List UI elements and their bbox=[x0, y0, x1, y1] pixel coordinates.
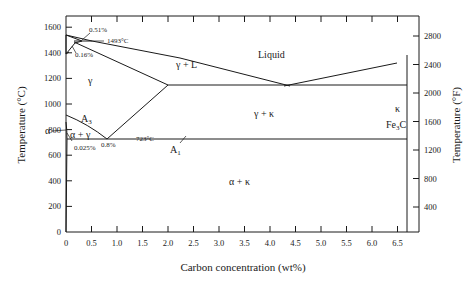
svg-text:6.5: 6.5 bbox=[392, 238, 403, 248]
svg-text:1400: 1400 bbox=[44, 48, 61, 58]
svg-text:1000: 1000 bbox=[44, 99, 61, 109]
svg-text:γ + L: γ + L bbox=[175, 59, 197, 70]
liquidus-right bbox=[284, 63, 397, 86]
phase-diagram: 0 0.5 1.0 1.5 2.0 2.5 3.0 3.5 4.0 4.5 5.… bbox=[0, 0, 473, 288]
x-tick-labels: 0 0.5 1.0 1.5 2.0 2.5 3.0 3.5 4.0 4.5 5.… bbox=[64, 238, 403, 248]
svg-text:1200: 1200 bbox=[44, 73, 61, 83]
svg-text:2400: 2400 bbox=[424, 60, 441, 70]
y-tick-labels-right: 400 800 1200 1600 2000 2400 2800 bbox=[424, 31, 441, 212]
svg-text:κ: κ bbox=[395, 103, 400, 114]
svg-text:1.5: 1.5 bbox=[137, 238, 148, 248]
svg-text:800: 800 bbox=[424, 174, 437, 184]
annotation-pointers bbox=[52, 33, 186, 143]
svg-text:5.5: 5.5 bbox=[341, 238, 352, 248]
svg-text:A3: A3 bbox=[81, 113, 92, 126]
svg-text:γ + κ: γ + κ bbox=[253, 108, 274, 119]
svg-text:α: α bbox=[45, 125, 51, 136]
y-axis-title-left: Temperature (°C) bbox=[15, 86, 28, 164]
svg-text:200: 200 bbox=[48, 201, 61, 211]
svg-text:600: 600 bbox=[48, 150, 61, 160]
svg-text:723°C: 723°C bbox=[136, 135, 154, 143]
x-axis-title: Carbon concentration (wt%) bbox=[180, 261, 306, 274]
svg-text:γ: γ bbox=[87, 75, 93, 86]
svg-text:2000: 2000 bbox=[424, 88, 441, 98]
svg-text:0.025%: 0.025% bbox=[74, 144, 96, 152]
svg-text:0.16%: 0.16% bbox=[75, 51, 93, 59]
svg-text:400: 400 bbox=[48, 176, 61, 186]
svg-text:6.0: 6.0 bbox=[367, 238, 378, 248]
svg-text:0: 0 bbox=[57, 227, 61, 237]
svg-text:400: 400 bbox=[424, 202, 437, 212]
svg-text:4.5: 4.5 bbox=[290, 238, 301, 248]
svg-text:0: 0 bbox=[64, 238, 68, 248]
svg-text:Liquid: Liquid bbox=[258, 49, 285, 60]
y-ticks-right bbox=[413, 36, 419, 207]
svg-text:3.5: 3.5 bbox=[239, 238, 250, 248]
svg-text:α + κ: α + κ bbox=[229, 176, 250, 187]
y-axis-title-right: Temperature (°F) bbox=[450, 87, 463, 163]
svg-text:0.5: 0.5 bbox=[86, 238, 97, 248]
acm-line bbox=[107, 85, 168, 139]
svg-text:α + γ: α + γ bbox=[70, 129, 91, 140]
svg-text:0.51%: 0.51% bbox=[89, 26, 107, 34]
svg-text:0.8%: 0.8% bbox=[101, 141, 116, 149]
svg-text:5.0: 5.0 bbox=[316, 238, 327, 248]
svg-text:1200: 1200 bbox=[424, 145, 441, 155]
svg-text:1600: 1600 bbox=[44, 22, 61, 32]
svg-text:1493°C: 1493°C bbox=[107, 37, 129, 45]
svg-text:A1: A1 bbox=[170, 144, 181, 157]
svg-text:3.0: 3.0 bbox=[214, 238, 225, 248]
svg-text:2800: 2800 bbox=[424, 31, 441, 41]
x-ticks bbox=[92, 16, 398, 232]
phase-boundaries bbox=[66, 35, 407, 232]
svg-text:1600: 1600 bbox=[424, 117, 441, 127]
svg-text:4.0: 4.0 bbox=[265, 238, 276, 248]
svg-text:2.5: 2.5 bbox=[188, 238, 199, 248]
plot-frame bbox=[66, 16, 419, 232]
svg-text:2.0: 2.0 bbox=[163, 238, 174, 248]
svg-text:1.0: 1.0 bbox=[112, 238, 123, 248]
svg-text:Fe3C: Fe3C bbox=[386, 119, 407, 132]
